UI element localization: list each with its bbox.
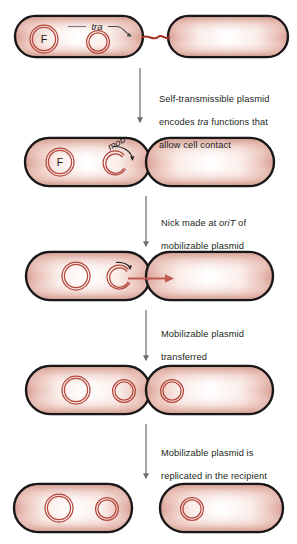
caption-line: Nick made at oriT of <box>161 218 246 228</box>
step-1-caption: Self-transmissible plasmid encodes tra f… <box>159 83 295 151</box>
panel-1: F tra <box>15 16 288 57</box>
caption-text: functions that <box>209 117 268 127</box>
f-plasmid-label: F <box>57 156 63 168</box>
cell-shading <box>147 253 272 299</box>
f-plasmid-label: F <box>41 33 47 45</box>
recipient-cell <box>146 366 273 414</box>
caption-line: mobilizable plasmid <box>161 241 244 251</box>
caption-text: of <box>235 218 246 228</box>
cell-shading <box>169 17 287 56</box>
recipient-cell <box>168 16 288 57</box>
donor-cell <box>15 16 143 57</box>
caption-line: allow cell contact <box>159 140 231 150</box>
caption-line: Mobilizable plasmid <box>161 329 244 339</box>
panel-5 <box>14 484 283 532</box>
conjugation-bridge <box>142 36 169 39</box>
caption-text: encodes <box>159 117 197 127</box>
conjugation-diagram: F tra <box>0 0 297 544</box>
gene-name-orit: oriT <box>219 218 235 228</box>
tra-label: tra <box>91 21 102 32</box>
panel-4 <box>26 366 273 414</box>
recipient-cell <box>160 484 283 532</box>
step-2-caption: Nick made at oriT of mobilizable plasmid <box>161 207 295 253</box>
cell-shading <box>147 367 272 413</box>
cell-shading <box>161 485 282 531</box>
recipient-cell <box>146 252 273 300</box>
gene-name-tra: tra <box>197 117 208 127</box>
caption-line: Self-transmissible plasmid <box>159 94 269 104</box>
caption-line: Mobilizable plasmid is <box>161 448 253 458</box>
panel-3 <box>26 252 273 300</box>
donor-cell <box>25 138 150 186</box>
step-3-caption: Mobilizable plasmid transferred <box>161 318 295 364</box>
caption-line: replicated in the recipient <box>161 471 267 481</box>
caption-line: encodes tra functions that <box>159 117 268 127</box>
caption-line: transferred <box>161 352 207 362</box>
step-4-caption: Mobilizable plasmid is replicated in the… <box>161 437 297 483</box>
caption-text: Nick made at <box>161 218 219 228</box>
cell-shading <box>26 139 149 185</box>
